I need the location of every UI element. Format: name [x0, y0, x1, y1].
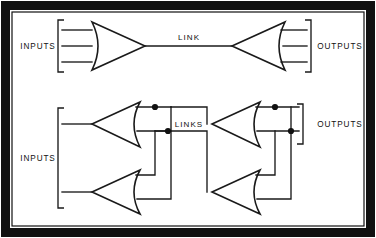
- bottom-inputs-label: INPUTS: [20, 154, 55, 163]
- diagram-single-link: INPUTS LINK OUTPUTS: [20, 20, 362, 72]
- bottom-destination-fan-c: [212, 102, 260, 147]
- link-lower-crossing: [155, 131, 207, 192]
- fan-d-out-lower: [257, 107, 291, 199]
- bottom-outputs-label: OUTPUTS: [317, 120, 362, 129]
- junction-dot-right-lower: [288, 128, 294, 134]
- top-input-lines: [62, 30, 92, 62]
- junction-dot-left-upper: [152, 104, 158, 110]
- bottom-destination-fan-d: [212, 170, 260, 214]
- bottom-source-fan-a: [92, 102, 140, 147]
- figure-root: INPUTS LINK OUTPUTS: [0, 0, 376, 238]
- top-inputs-label: INPUTS: [20, 42, 55, 51]
- top-outputs-label: OUTPUTS: [317, 42, 362, 51]
- diagram-multiple-links: INPUTS LINKS OUTPUTS: [20, 102, 362, 214]
- top-link-label: LINK: [178, 33, 200, 42]
- bottom-links-label: LINKS: [175, 120, 204, 129]
- fan-d-out-upper: [256, 131, 275, 175]
- junction-dot-right-upper: [272, 104, 278, 110]
- bottom-outputs-bracket: [297, 104, 303, 144]
- bottom-source-fan-b: [92, 170, 140, 214]
- top-output-lines: [281, 30, 307, 62]
- fan-b-out-upper: [136, 131, 155, 175]
- link-diagram: INPUTS LINK OUTPUTS: [0, 0, 376, 238]
- junction-dot-left-lower: [165, 128, 171, 134]
- top-destination-fan: [232, 22, 285, 70]
- fan-b-out-lower: [137, 107, 171, 199]
- top-source-fan: [92, 22, 145, 70]
- bottom-inputs-bracket: [58, 108, 64, 208]
